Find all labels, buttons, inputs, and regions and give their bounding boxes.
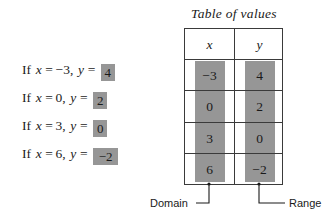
equation-list: If x=−3, y=4 If x=0, y=2 If x=3, y=0 If … [0,56,172,168]
equation-text: If x=3, y= [22,118,90,133]
equals-sign-2: = [77,146,90,161]
equation-prefix: If [22,62,31,77]
equation-text: If x=−3, y= [22,62,98,77]
equation-row: If x=3, y=0 [0,112,172,140]
cell-y: −2 [235,154,284,222]
equation-row: If x=6, y=−2 [0,140,172,168]
range-label: Range [289,197,321,209]
equation-prefix: If [22,146,31,161]
equation-variable-x: x [35,62,43,77]
equals-sign-1: = [43,62,56,77]
equals-sign-2: = [77,118,90,133]
table-title: Table of values [184,6,284,22]
equation-row: If x=0, y=2 [0,84,172,112]
highlighted-y-value: 2 [93,92,107,109]
highlighted-y-value: −2 [93,148,118,165]
equation-x-value: −3, [56,62,74,77]
values-table: x y −3 4 0 2 3 0 6 −2 [184,28,283,185]
column-divider [234,29,235,184]
domain-label: Domain [150,197,188,209]
equation-variable-x: x [35,90,43,105]
equation-x-value: 0, [56,90,66,105]
cell-x: 6 [185,154,234,222]
equals-sign-1: = [43,146,56,161]
equals-sign-2: = [85,62,98,77]
equals-sign-2: = [77,90,90,105]
highlighted-y-value: 4 [101,64,115,81]
equation-text: If x=0, y= [22,90,90,105]
equation-prefix: If [22,90,31,105]
equation-variable-y: y [77,62,85,77]
equals-sign-1: = [43,118,56,133]
equation-x-value: 6, [56,146,66,161]
equation-variable-x: x [35,146,43,161]
highlighted-y-value: 0 [93,120,107,137]
equals-sign-1: = [43,90,56,105]
equation-variable-x: x [35,118,43,133]
equation-text: If x=6, y= [22,146,90,161]
equation-row: If x=−3, y=4 [0,56,172,84]
equation-prefix: If [22,118,31,133]
equation-x-value: 3, [56,118,66,133]
